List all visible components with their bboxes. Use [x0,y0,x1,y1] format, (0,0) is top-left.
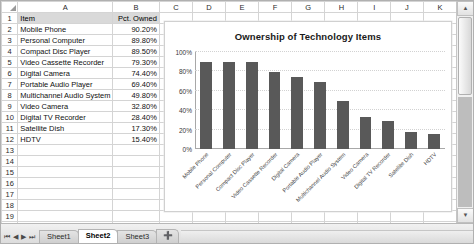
cell-a17[interactable] [18,189,113,200]
cell-b5[interactable]: 79.30% [113,57,159,68]
scroll-down-arrow-icon[interactable]: ▼ [457,208,474,223]
chart-object[interactable]: Ownership of Technology Items 100%80%60%… [164,21,452,212]
cell-b2[interactable]: 90.20% [113,24,159,35]
sheet-tab-sheet2[interactable]: Sheet2 [78,229,119,244]
row-header-14[interactable]: 14 [2,156,18,167]
column-header-k[interactable]: K [423,2,456,13]
row-header-9[interactable]: 9 [2,101,18,112]
row-header-5[interactable]: 5 [2,57,18,68]
cell-e19[interactable] [226,211,259,222]
sheet-tab-sheet1[interactable]: Sheet1 [39,230,79,244]
cell-a11[interactable]: Satellite Dish [18,123,113,134]
row-header-11[interactable]: 11 [2,123,18,134]
cell-b11[interactable]: 17.30% [113,123,159,134]
cell-a7[interactable]: Portable Audio Player [18,79,113,90]
column-header-c[interactable]: C [159,2,192,13]
row-header-2[interactable]: 2 [2,24,18,35]
cell-a18[interactable] [18,200,113,211]
vertical-scroll-thumb[interactable] [458,17,472,95]
row-header-7[interactable]: 7 [2,79,18,90]
chart-bar[interactable] [269,72,281,149]
column-header-d[interactable]: D [192,2,225,13]
row-header-8[interactable]: 8 [2,90,18,101]
row-header-18[interactable]: 18 [2,200,18,211]
first-sheet-icon[interactable]: ⏮ [4,233,10,240]
cell-b18[interactable] [113,200,159,211]
vertical-scrollbar[interactable]: ▲ ▼ [456,1,473,223]
row-header-17[interactable]: 17 [2,189,18,200]
cell-a3[interactable]: Personal Computer [18,35,113,46]
row-header-15[interactable]: 15 [2,167,18,178]
cell-h19[interactable] [325,211,358,222]
column-header-i[interactable]: I [358,2,391,13]
column-header-j[interactable]: J [391,2,424,13]
cell-b15[interactable] [113,167,159,178]
chart-bar[interactable] [337,101,349,149]
chart-bar[interactable] [405,132,417,149]
chart-bar[interactable] [360,117,372,149]
cell-a1[interactable]: Item [18,13,113,24]
cell-i19[interactable] [358,211,391,222]
chart-bar[interactable] [314,82,326,149]
cell-b3[interactable]: 89.80% [113,35,159,46]
cell-b10[interactable]: 28.40% [113,112,159,123]
cell-b9[interactable]: 32.80% [113,101,159,112]
chart-bar[interactable] [200,62,212,149]
chart-bar[interactable] [223,62,235,149]
column-header-e[interactable]: E [226,2,259,13]
cell-b16[interactable] [113,178,159,189]
row-header-1[interactable]: 1 [2,13,18,24]
cell-a16[interactable] [18,178,113,189]
sheet-tab-sheet3[interactable]: Sheet3 [117,230,157,244]
column-header-f[interactable]: F [259,2,292,13]
cell-k19[interactable] [423,211,456,222]
cell-a19[interactable] [18,211,113,222]
cell-b1[interactable]: Pct. Owned [113,13,159,24]
last-sheet-icon[interactable]: ⏭ [29,233,35,240]
cell-f19[interactable] [259,211,292,222]
cell-a12[interactable]: HDTV [18,134,113,145]
cell-b13[interactable] [113,145,159,156]
scroll-up-arrow-icon[interactable]: ▲ [457,1,474,16]
cell-a4[interactable]: Compact Disc Player [18,46,113,57]
cell-g19[interactable] [292,211,325,222]
cell-a8[interactable]: Multichannel Audio System [18,90,113,101]
cell-a6[interactable]: Digital Camera [18,68,113,79]
chart-bar[interactable] [428,134,440,149]
row-header-13[interactable]: 13 [2,145,18,156]
prev-sheet-icon[interactable]: ◀ [13,233,18,240]
cell-b7[interactable]: 69.40% [113,79,159,90]
cell-a9[interactable]: Video Camera [18,101,113,112]
column-header-g[interactable]: G [292,2,325,13]
chart-bar[interactable] [291,77,303,149]
row-header-12[interactable]: 12 [2,134,18,145]
row-header-6[interactable]: 6 [2,68,18,79]
cell-a13[interactable] [18,145,113,156]
cell-a2[interactable]: Mobile Phone [18,24,113,35]
insert-sheet-icon[interactable]: ➕ [156,229,179,243]
cell-b4[interactable]: 89.50% [113,46,159,57]
cell-c19[interactable] [159,211,192,222]
cell-a10[interactable]: Digital TV Recorder [18,112,113,123]
next-sheet-icon[interactable]: ▶ [21,233,26,240]
cell-a5[interactable]: Video Cassette Recorder [18,57,113,68]
cell-b17[interactable] [113,189,159,200]
cell-b12[interactable]: 15.40% [113,134,159,145]
row-header-4[interactable]: 4 [2,46,18,57]
cell-a14[interactable] [18,156,113,167]
chart-bar[interactable] [382,121,394,149]
column-header-a[interactable]: A [18,2,113,13]
vertical-scroll-track[interactable] [458,97,472,207]
cell-a15[interactable] [18,167,113,178]
row-header-19[interactable]: 19 [2,211,18,222]
cell-b6[interactable]: 74.40% [113,68,159,79]
cell-b14[interactable] [113,156,159,167]
chart-bar[interactable] [246,62,258,149]
row-header-10[interactable]: 10 [2,112,18,123]
column-header-h[interactable]: H [325,2,358,13]
cell-d19[interactable] [192,211,225,222]
row-header-3[interactable]: 3 [2,35,18,46]
row-header-16[interactable]: 16 [2,178,18,189]
select-all-corner[interactable] [2,2,18,13]
cell-b8[interactable]: 49.80% [113,90,159,101]
